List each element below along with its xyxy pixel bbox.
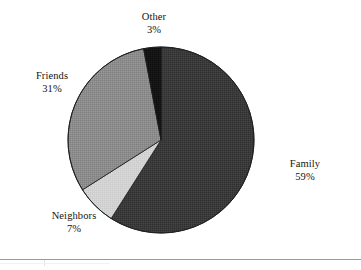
pie-label-friends-percent: 31% xyxy=(14,83,90,96)
pie-label-other-name: Other xyxy=(117,11,191,24)
footer-faint-line xyxy=(0,263,110,264)
pie-label-neighbors-percent: 7% xyxy=(28,223,120,236)
pie-label-family-name: Family xyxy=(267,158,343,171)
pie-label-friends-name: Friends xyxy=(14,70,90,83)
pie-label-other: Other 3% xyxy=(117,11,191,36)
pie-label-neighbors: Neighbors 7% xyxy=(28,210,120,235)
pie-chart-figure: Other 3% Friends 31% Neighbors 7% Family… xyxy=(0,0,361,270)
pie-label-friends: Friends 31% xyxy=(14,70,90,95)
pie-label-neighbors-name: Neighbors xyxy=(28,210,120,223)
chart-plot-area: Other 3% Friends 31% Neighbors 7% Family… xyxy=(0,0,361,256)
pie-label-family: Family 59% xyxy=(267,158,343,183)
pie-label-other-percent: 3% xyxy=(117,24,191,37)
pie-label-family-percent: 59% xyxy=(267,171,343,184)
footer-divider xyxy=(0,259,361,260)
